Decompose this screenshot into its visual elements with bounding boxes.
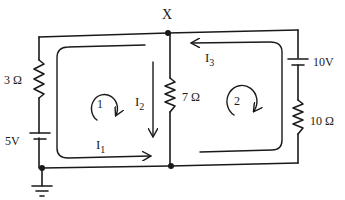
resistor-3ohm-icon — [34, 60, 44, 98]
current-i3-label: I3 — [205, 50, 214, 68]
r-left-label: 3 Ω — [4, 73, 22, 87]
r-right-label: 10 Ω — [310, 114, 334, 128]
current-i2-label: I2 — [135, 94, 144, 112]
v-left-label: 5V — [5, 134, 20, 148]
battery-10v-icon — [288, 59, 308, 65]
loop-1-label: 1 — [97, 97, 103, 111]
battery-5v-icon — [30, 133, 50, 139]
ground-icon — [32, 186, 52, 196]
node-x-dot — [165, 30, 171, 36]
node-bottom-middle-dot — [168, 163, 174, 169]
node-bottom-left-dot — [39, 165, 45, 171]
circuit-svg: X 3 Ω 7 Ω 10 Ω 5V 10V I1 I2 I3 1 2 — [0, 0, 345, 200]
circuit-diagram: X 3 Ω 7 Ω 10 Ω 5V 10V I1 I2 I3 1 2 — [0, 0, 345, 200]
resistor-7ohm-icon — [165, 78, 175, 112]
node-x-label: X — [162, 7, 172, 22]
loop-2-circulation-icon — [227, 85, 257, 115]
resistor-10ohm-icon — [293, 100, 303, 134]
v-right-label: 10V — [313, 55, 334, 69]
r-middle-label: 7 Ω — [182, 90, 200, 104]
loop-1-circulation-icon — [91, 95, 117, 120]
loop-2-label: 2 — [234, 94, 240, 108]
current-i1-label: I1 — [96, 137, 105, 155]
wires — [39, 30, 298, 186]
